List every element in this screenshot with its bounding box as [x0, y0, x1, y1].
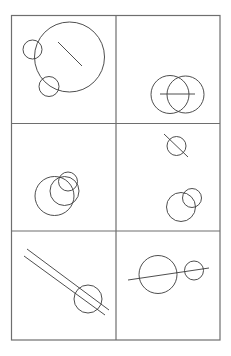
line-1: [58, 42, 82, 66]
circle-1: [139, 256, 177, 294]
panel-3: [35, 172, 79, 216]
panel-1: [23, 22, 105, 97]
circle-1: [151, 76, 189, 114]
circle-1: [35, 177, 74, 216]
line-1: [128, 268, 209, 280]
circle-2: [167, 193, 196, 222]
circle-2: [23, 40, 42, 59]
circle-3: [39, 77, 59, 97]
circle-2: [50, 177, 79, 206]
panel-6: [128, 256, 209, 294]
circle-2: [167, 76, 204, 113]
line-1: [27, 249, 109, 310]
panel-grid: [12, 16, 221, 341]
diagram-canvas: [0, 0, 231, 356]
panel-4: [164, 134, 202, 222]
circle-1: [35, 22, 105, 92]
panel-5: [24, 249, 109, 315]
line-1: [164, 134, 188, 157]
circle-1: [74, 285, 102, 313]
panel-2: [151, 76, 204, 114]
